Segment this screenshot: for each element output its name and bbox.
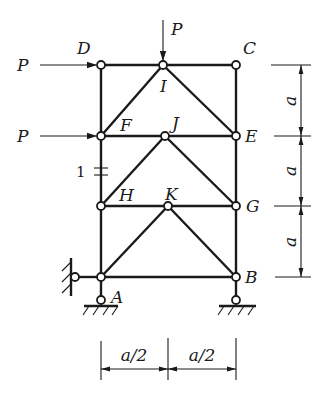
- label-E: E: [244, 126, 258, 146]
- label-G: G: [246, 196, 260, 216]
- dim-vertical-2: a: [280, 166, 300, 176]
- load-left-top: P: [16, 55, 96, 75]
- node-labels: D I C F J E H K G A B: [76, 38, 260, 307]
- label-I: I: [159, 76, 167, 96]
- label-H: H: [118, 185, 135, 205]
- vertical-dimension: a a a: [271, 65, 311, 277]
- member-K-B: [168, 206, 236, 277]
- dim-horizontal-1: a/2: [121, 345, 148, 365]
- dim-vertical-1: a: [280, 96, 300, 106]
- label-A: A: [109, 287, 123, 307]
- left-wall-support: [62, 258, 79, 296]
- node-E: [232, 132, 240, 140]
- node-A-joint: [97, 273, 105, 281]
- member-F-I: [101, 65, 163, 136]
- truss-nodes: [97, 61, 240, 281]
- label-D: D: [76, 38, 91, 58]
- node-J: [161, 132, 169, 140]
- label-B: B: [244, 267, 258, 287]
- node-I: [159, 61, 167, 69]
- label-C: C: [243, 38, 256, 58]
- node-H: [97, 202, 105, 210]
- node-F: [97, 132, 105, 140]
- load-left-mid-label: P: [16, 126, 29, 146]
- label-F: F: [119, 115, 133, 135]
- load-top-label: P: [170, 19, 183, 39]
- label-K: K: [164, 184, 179, 204]
- truss-diagram: 1 D I: [0, 0, 322, 414]
- truss-members: [74, 65, 236, 300]
- label-J: J: [169, 113, 180, 133]
- load-top: P: [163, 19, 183, 60]
- dim-vertical-3: a: [280, 237, 300, 247]
- horizontal-dimension: a/2 a/2: [101, 338, 236, 380]
- node-G: [232, 202, 240, 210]
- member-1-label: 1: [76, 163, 86, 181]
- load-left-top-label: P: [16, 55, 29, 75]
- dim-horizontal-2: a/2: [189, 345, 216, 365]
- member-1-marker: 1: [76, 163, 108, 181]
- node-C: [232, 61, 240, 69]
- support-B: [218, 296, 256, 315]
- node-B: [232, 273, 240, 281]
- node-D: [97, 61, 105, 69]
- load-left-mid: P: [16, 126, 96, 146]
- member-A-K: [101, 206, 168, 277]
